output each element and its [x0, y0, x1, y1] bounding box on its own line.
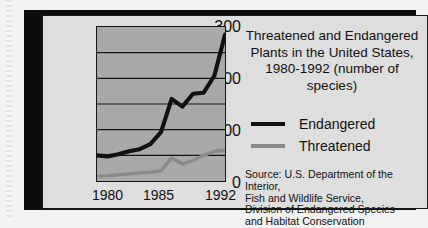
- legend-line-icon-endangered: [251, 122, 285, 126]
- legend-item-endangered: Endangered: [251, 113, 425, 135]
- x-axis-tick-1992: 1992: [205, 188, 236, 202]
- chart-title-line-1: Threatened and Endangered: [243, 28, 421, 45]
- plot-area: [96, 26, 226, 182]
- source-note-line-1: Source: U.S. Department of the Interior,: [245, 169, 425, 193]
- chart-region: 300 200 100 0 1980 1985: [45, 18, 241, 206]
- x-axis-tick-1980: 1980: [92, 188, 123, 202]
- chart-svg: [97, 27, 225, 181]
- chart-legend: Endangered Threatened: [251, 113, 425, 157]
- legend-label-threatened: Threatened: [299, 138, 371, 154]
- scan-perforation-strip: [6, 0, 12, 218]
- source-note: Source: U.S. Department of the Interior,…: [245, 169, 425, 228]
- chart-title-line-3: 1980-1992 (number of species): [243, 61, 421, 94]
- chart-title-line-2: Plants in the United States,: [243, 45, 421, 62]
- x-axis-tick-1985: 1985: [143, 188, 174, 202]
- legend-item-threatened: Threatened: [251, 135, 425, 157]
- source-note-line-4: and Habitat Conservation: [245, 216, 425, 228]
- legend-label-endangered: Endangered: [299, 116, 375, 132]
- text-region: Threatened and Endangered Plants in the …: [239, 20, 425, 206]
- legend-line-icon-threatened: [251, 144, 285, 148]
- gridlines: [97, 53, 225, 156]
- figure-drop-shadow: 300 200 100 0 1980 1985: [24, 10, 416, 210]
- chart-title: Threatened and Endangered Plants in the …: [239, 20, 425, 94]
- figure-panel: 300 200 100 0 1980 1985: [42, 15, 428, 209]
